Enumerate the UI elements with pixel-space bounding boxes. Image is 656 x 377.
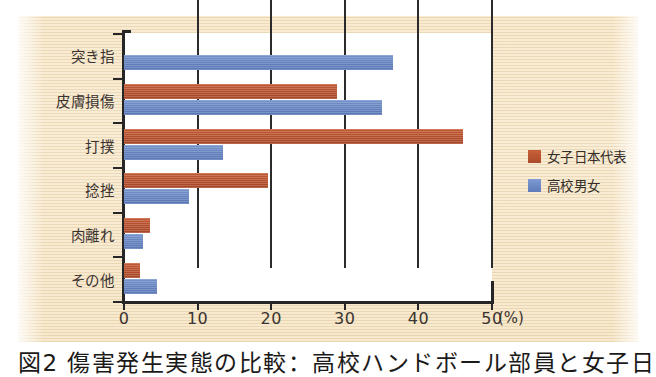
category-label-3: 捻挫 [22, 179, 114, 197]
y-tick-2 [113, 122, 124, 124]
category-label-text: その他 [28, 269, 114, 290]
x-axis-right-cap [491, 281, 494, 304]
category-label-text: 肉離れ [28, 224, 114, 245]
bar-0-1 [124, 84, 337, 99]
x-tick-label-10: 10 [178, 309, 218, 328]
y-tick-1 [113, 78, 124, 80]
figure-root: 突き指皮膚損傷打撲捻挫肉離れその他 01020304050 (%) 女子日本代表… [0, 0, 656, 377]
x-axis-unit-label: (%) [498, 309, 524, 327]
category-label-1: 皮膚損傷 [22, 90, 114, 108]
bar-0-5 [124, 263, 140, 278]
legend: 女子日本代表高校男女 [528, 146, 627, 204]
y-tick-3 [113, 167, 124, 169]
bar-1-0 [124, 55, 393, 70]
figure-caption: 図2 傷害発生実態の比較：高校ハンドボール部員と女子日 [18, 348, 656, 377]
figure-caption-text: 図2 傷害発生実態の比較：高校ハンドボール部員と女子日 [18, 348, 656, 377]
gridline-50 [491, 0, 493, 268]
x-tick-label-40: 40 [398, 309, 438, 328]
x-tick-label-20: 20 [251, 309, 291, 328]
x-axis-line [122, 301, 494, 304]
legend-swatch-0 [528, 150, 541, 163]
category-label-text: 打撲 [28, 135, 114, 156]
legend-item-0: 女子日本代表 [528, 146, 627, 166]
plot-area [124, 33, 492, 301]
category-label-2: 打撲 [22, 135, 114, 153]
bar-1-2 [124, 145, 223, 160]
bar-0-4 [124, 218, 150, 233]
bar-1-1 [124, 100, 382, 115]
bar-0-3 [124, 173, 268, 188]
category-label-5: その他 [22, 269, 114, 287]
bar-0-2 [124, 129, 463, 144]
legend-label-0: 女子日本代表 [547, 146, 627, 166]
category-label-text: 皮膚損傷 [28, 90, 114, 111]
bar-1-3 [124, 189, 189, 204]
legend-label-1: 高校男女 [547, 175, 600, 195]
x-tick-label-30: 30 [325, 309, 365, 328]
category-label-text: 捻挫 [28, 179, 114, 200]
bar-1-5 [124, 279, 157, 294]
category-label-text: 突き指 [28, 45, 114, 66]
legend-item-1: 高校男女 [528, 175, 627, 195]
y-tick-0 [113, 33, 124, 35]
legend-swatch-1 [528, 179, 541, 192]
category-label-0: 突き指 [22, 45, 114, 63]
bar-1-4 [124, 234, 143, 249]
x-tick-label-0: 0 [104, 309, 144, 328]
category-label-4: 肉離れ [22, 224, 114, 242]
y-tick-4 [113, 212, 124, 214]
y-tick-5 [113, 256, 124, 258]
